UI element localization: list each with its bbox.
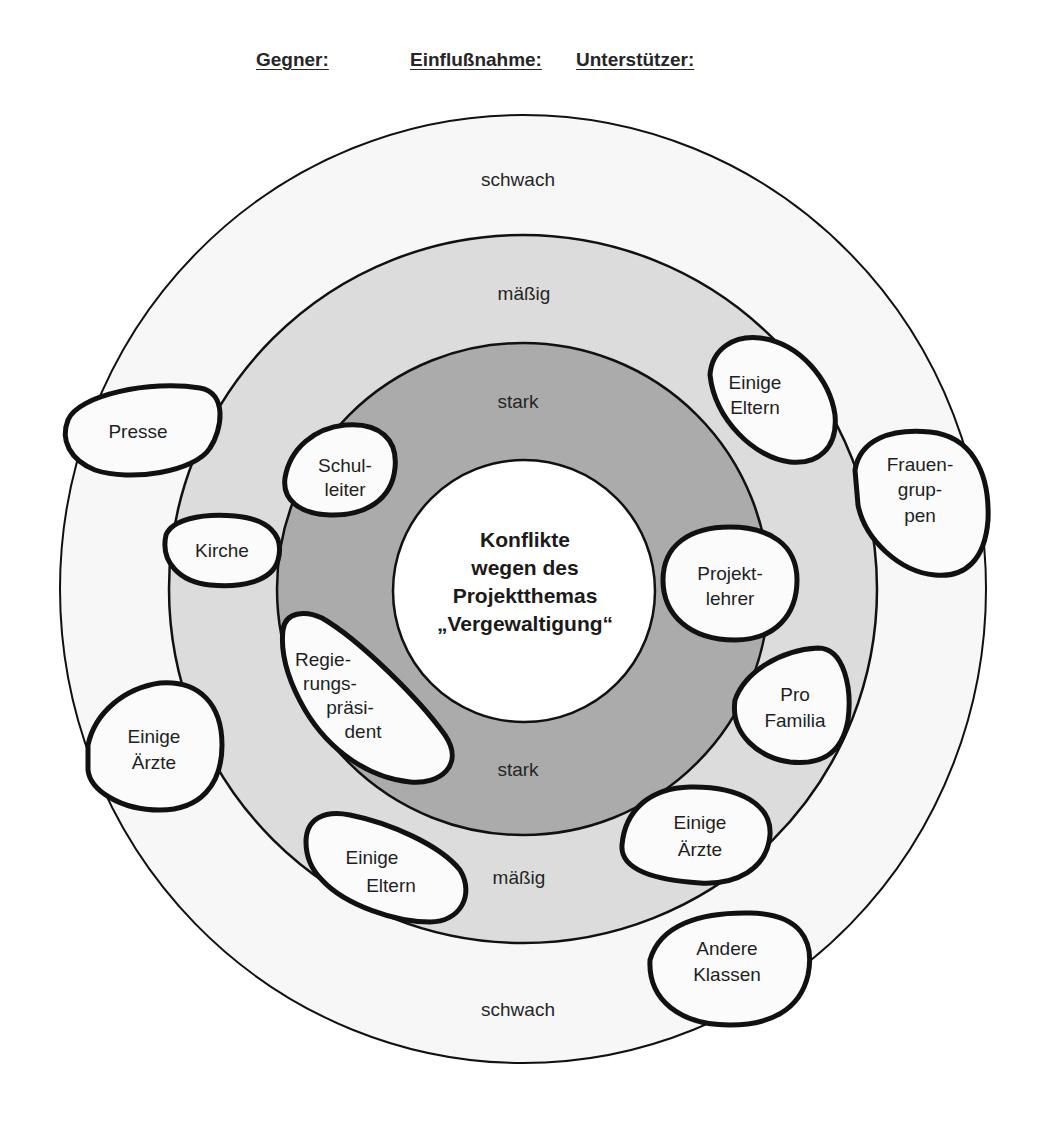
actor-label: grup-: [898, 479, 942, 500]
actor-label: Pro: [780, 684, 810, 705]
label-stark-top: stark: [497, 391, 539, 412]
actor-einige-aerzte-right: Einige Ärzte: [622, 787, 770, 883]
actor-label: Regie-: [295, 649, 351, 670]
actor-presse: Presse: [65, 386, 220, 475]
influence-diagram: schwach mäßig stark stark mäßig schwach …: [0, 0, 1046, 1137]
actor-label: Einige: [674, 812, 727, 833]
actor-label: Ärzte: [132, 752, 176, 773]
actor-label: Ärzte: [678, 839, 722, 860]
label-schwach-bottom: schwach: [481, 999, 555, 1020]
center-line-4: „Vergewaltigung“: [437, 612, 613, 635]
actor-label: Eltern: [366, 875, 416, 896]
center-line-2: wegen des: [470, 556, 578, 579]
actor-label: Andere: [696, 938, 757, 959]
actor-label: Presse: [108, 421, 167, 442]
actor-label: Einige: [128, 726, 181, 747]
actor-andere-klassen: Andere Klassen: [650, 913, 810, 1025]
label-maessig-bottom: mäßig: [493, 867, 546, 888]
actor-label: Familia: [764, 710, 826, 731]
label-schwach-top: schwach: [481, 169, 555, 190]
actor-label: pen: [904, 505, 936, 526]
actor-label: Einige: [729, 372, 782, 393]
center-line-3: Projektthemas: [453, 584, 598, 607]
actor-label: leiter: [324, 479, 366, 500]
label-maessig-top: mäßig: [498, 283, 551, 304]
actor-label: Kirche: [195, 540, 249, 561]
actor-label: lehrer: [706, 588, 755, 609]
actor-label: dent: [345, 721, 383, 742]
actor-label: Schul-: [318, 455, 372, 476]
actor-projektlehrer: Projekt- lehrer: [663, 527, 797, 640]
label-stark-bottom: stark: [497, 759, 539, 780]
actor-label: Klassen: [693, 964, 761, 985]
center-line-1: Konflikte: [480, 528, 570, 551]
actor-label: Eltern: [730, 397, 780, 418]
actor-label: rungs-: [303, 673, 357, 694]
actor-label: Projekt-: [697, 563, 762, 584]
actor-label: präsi-: [326, 697, 374, 718]
actor-label: Frauen-: [887, 454, 954, 475]
actor-kirche: Kirche: [165, 515, 280, 585]
actor-label: Einige: [346, 847, 399, 868]
